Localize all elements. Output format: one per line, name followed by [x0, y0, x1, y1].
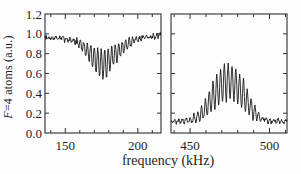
- x-tick-label: 500: [260, 138, 280, 153]
- figure: 0.00.20.40.60.81.01.2150200450500 F=4 at…: [0, 0, 301, 174]
- y-tick-label: 1.0: [26, 26, 42, 41]
- x-tick-label: 150: [56, 138, 76, 153]
- y-tick-label: 0.6: [26, 66, 43, 81]
- x-axis-label: frequency (kHz): [122, 153, 214, 169]
- signal-trace: [45, 33, 161, 80]
- y-axis-label-rest: =4 atoms (a.u.): [1, 35, 15, 111]
- y-tick-label: 1.2: [26, 7, 42, 22]
- x-tick-label: 200: [128, 138, 148, 153]
- signal-trace: [171, 63, 287, 124]
- y-axis-label: F=4 atoms (a.u.): [1, 35, 16, 118]
- y-tick-label: 0.0: [26, 126, 42, 141]
- x-tick-label: 450: [180, 138, 200, 153]
- y-tick-label: 0.2: [26, 106, 42, 121]
- spectroscopy-chart: 0.00.20.40.60.81.01.2150200450500: [0, 0, 301, 174]
- y-tick-label: 0.4: [26, 86, 43, 101]
- y-axis-variable: F: [1, 111, 15, 119]
- y-tick-label: 0.8: [26, 46, 42, 61]
